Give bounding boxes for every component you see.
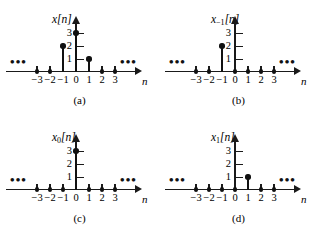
stem-head--1-b (219, 43, 224, 48)
y-tick-2-d (236, 164, 243, 165)
y-tick-1-a (77, 59, 84, 60)
x-axis-arrow-a (135, 67, 142, 75)
y-axis-arrow-b (231, 16, 239, 24)
y-tick-1-d (236, 177, 243, 178)
x-tick-label-3-a: 3 (107, 75, 123, 86)
x-tick-label-3-b: 3 (266, 75, 282, 86)
y-tick-label-2-d: 2 (219, 159, 231, 170)
panel-caption-c: (c) (0, 213, 159, 224)
y-tick-label-3-b: 3 (219, 28, 231, 39)
y-tick-2-a (77, 46, 84, 47)
y-tick-label-2-c: 2 (60, 159, 72, 170)
panel-caption-a: (a) (0, 95, 159, 106)
stem-0-value-3-c (75, 151, 77, 190)
y-axis-arrow-d (231, 134, 239, 142)
stem-head-1-a (86, 56, 91, 61)
y-tick-1-b (236, 59, 243, 60)
y-axis-b (234, 24, 236, 72)
panel-caption-d: (d) (159, 213, 318, 224)
ellipsis-left-c: ••• (10, 173, 27, 186)
title-bracket-a: [n] (57, 13, 72, 25)
title-sub-b: −1 (216, 18, 225, 27)
y-tick-label-3-d: 3 (219, 146, 231, 157)
x-axis-arrow-c (135, 185, 142, 193)
panel-d: x1[n] ••• ••• n 123−3−2−10123 (d) (159, 118, 318, 236)
panel-b: x−1[n] ••• ••• n 123−3−2−10123 (b) (159, 0, 318, 118)
y-tick-3-d (236, 151, 243, 152)
y-tick-label-3-a: 3 (60, 28, 72, 39)
x-axis-label-c: n (142, 194, 148, 205)
y-tick-label-3-c: 3 (60, 146, 72, 157)
figure-panel-grid: x[n] ••• ••• n 123−3−2−10123 (a) x−1[n] … (0, 0, 318, 236)
panel-caption-b: (b) (159, 95, 318, 106)
y-tick-2-b (236, 46, 243, 47)
stem-head-0-a (73, 30, 78, 35)
plot-title-a: x[n] (52, 14, 72, 27)
stem-head-1-d (245, 174, 250, 179)
stem--1-value-2-b (221, 46, 223, 72)
y-tick-label-1-d: 1 (219, 172, 231, 183)
ellipsis-left-a: ••• (10, 55, 27, 68)
y-axis-d (234, 142, 236, 190)
panel-c: x0[n] ••• ••• n 123−3−2−10123 (c) (0, 118, 159, 236)
panel-a: x[n] ••• ••• n 123−3−2−10123 (a) (0, 0, 159, 118)
x-axis-label-b: n (301, 76, 307, 87)
y-axis-arrow-c (72, 134, 80, 142)
x-axis-arrow-b (294, 67, 301, 75)
stem--1-value-2-a (62, 46, 64, 72)
x-tick-label-3-d: 3 (266, 193, 282, 204)
stem-head--1-a (60, 43, 65, 48)
ellipsis-left-b: ••• (169, 55, 186, 68)
x-axis-arrow-d (294, 185, 301, 193)
y-tick-1-c (77, 177, 84, 178)
x-axis-label-d: n (301, 194, 307, 205)
y-tick-label-1-c: 1 (60, 172, 72, 183)
y-axis-arrow-a (72, 16, 80, 24)
stem-head-0-c (73, 148, 78, 153)
y-tick-3-b (236, 33, 243, 34)
stem-0-value-3-a (75, 33, 77, 72)
x-axis-label-a: n (142, 76, 148, 87)
y-tick-2-c (77, 164, 84, 165)
ellipsis-left-d: ••• (169, 173, 186, 186)
x-tick-label-3-c: 3 (107, 193, 123, 204)
